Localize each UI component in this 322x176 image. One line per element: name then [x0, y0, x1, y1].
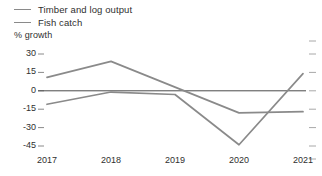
chart-svg — [0, 0, 322, 176]
y-tick-label: -45 — [10, 141, 36, 150]
x-tick-label: 2020 — [219, 156, 259, 165]
y-tick-label: 30 — [10, 49, 36, 58]
x-tick-label: 2019 — [155, 156, 195, 165]
y-tick-label: 0 — [10, 86, 36, 95]
x-tick-label: 2021 — [283, 156, 322, 165]
plot-area: 30150-15-30-45 20172018201920202021 — [0, 0, 322, 176]
y-tick-label: -30 — [10, 123, 36, 132]
y-axis-tick-marks-left — [38, 54, 44, 146]
y-axis-tick-marks-right — [309, 41, 316, 159]
y-tick-label: 15 — [10, 67, 36, 76]
chart-container: Timber and log output Fish catch % growt… — [0, 0, 322, 176]
y-tick-label: -15 — [10, 104, 36, 113]
x-tick-label: 2018 — [91, 156, 131, 165]
x-tick-label: 2017 — [27, 156, 67, 165]
series-line-fish-catch — [47, 74, 303, 145]
series-line-timber-and-log-output — [47, 61, 303, 113]
series-lines — [47, 61, 303, 144]
